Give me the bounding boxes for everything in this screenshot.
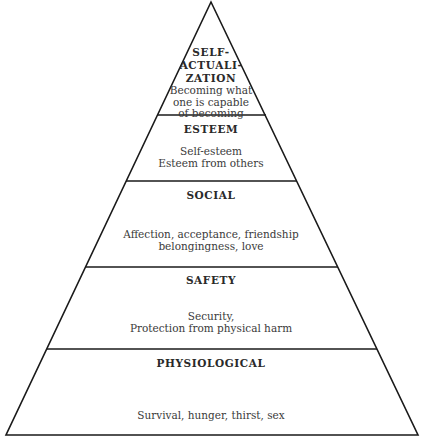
level-description: Survival, hunger, thirst, sex [0,409,422,422]
level-title: PHYSIOLOGICAL [0,357,422,370]
level-title: SOCIAL [0,189,422,202]
level-description: Esteem from others [0,157,422,170]
level-description: Protection from physical harm [0,322,422,335]
level-title: SAFETY [0,274,422,287]
level-title: ACTUALI- [0,59,422,72]
level-title: ESTEEM [0,123,422,136]
level-description: of becoming [0,107,422,120]
level-title: SELF- [0,46,422,59]
level-description: belongingness, love [0,240,422,253]
